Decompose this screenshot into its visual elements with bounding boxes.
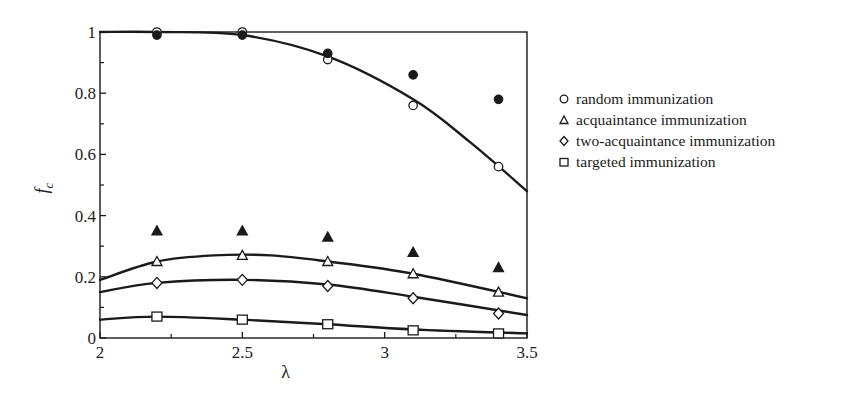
circle-filled-marker xyxy=(153,31,161,39)
square-open-marker xyxy=(323,320,333,329)
x-axis: 22.533.5 xyxy=(96,332,538,362)
legend-item-targeted: targeted immunization xyxy=(557,151,775,172)
fit-curve xyxy=(100,317,527,334)
legend-label: random immunization xyxy=(576,88,713,109)
triangle-filled-marker xyxy=(323,232,333,241)
square-open-marker xyxy=(237,315,247,324)
x-tick-label: 3.5 xyxy=(516,343,537,362)
diamond-open-marker xyxy=(408,293,418,304)
circle-open-icon xyxy=(557,92,571,106)
diamond-open-marker xyxy=(152,277,162,288)
circle-filled-marker xyxy=(494,95,502,103)
x-tick-label: 3 xyxy=(380,343,389,362)
legend-item-two-acquaintance: two-acquaintance immunization xyxy=(557,130,775,151)
legend-label: targeted immunization xyxy=(576,151,716,172)
circle-open-marker xyxy=(494,162,502,170)
y-tick-label: 0.8 xyxy=(75,84,96,103)
fit-curve xyxy=(100,255,527,299)
y-axis: 00.20.40.60.81 xyxy=(75,23,106,348)
square-open-marker xyxy=(494,329,504,338)
fit-curve xyxy=(100,32,527,191)
circle-filled-marker xyxy=(324,49,332,57)
diamond-open-icon xyxy=(557,134,571,148)
triangle-filled-marker xyxy=(152,226,162,235)
x-tick-label: 2 xyxy=(96,343,105,362)
circle-filled-marker xyxy=(409,71,417,79)
legend-label: acquaintance immunization xyxy=(576,109,747,130)
circle-open-marker xyxy=(409,101,417,109)
circle-filled-marker xyxy=(238,31,246,39)
y-tick-label: 1 xyxy=(88,23,97,42)
triangle-filled-marker xyxy=(237,226,247,235)
chart-canvas: 00.20.40.60.81 22.533.5 fc λ xyxy=(0,0,862,393)
y-tick-label: 0.4 xyxy=(75,207,97,226)
legend-item-acquaintance: acquaintance immunization xyxy=(557,109,775,130)
data-markers xyxy=(152,28,504,338)
legend: random immunization acquaintance immuniz… xyxy=(557,88,775,172)
y-axis-title: fc xyxy=(32,182,56,193)
x-tick-label: 2.5 xyxy=(232,343,253,362)
diamond-open-marker xyxy=(323,280,333,291)
square-open-icon xyxy=(557,155,571,169)
square-open-marker xyxy=(408,326,418,335)
legend-label: two-acquaintance immunization xyxy=(576,130,775,151)
legend-item-random: random immunization xyxy=(557,88,775,109)
diamond-open-marker xyxy=(237,274,247,285)
plot-border xyxy=(100,32,527,338)
y-tick-label: 0 xyxy=(88,329,97,348)
x-axis-title: λ xyxy=(281,362,290,382)
plot-frame xyxy=(100,32,527,338)
triangle-open-icon xyxy=(557,113,571,127)
triangle-filled-marker xyxy=(408,247,418,256)
triangle-filled-marker xyxy=(494,263,504,272)
y-tick-label: 0.6 xyxy=(75,145,96,164)
y-tick-label: 0.2 xyxy=(75,268,96,287)
fit-curves xyxy=(100,32,527,334)
square-open-marker xyxy=(152,312,162,321)
